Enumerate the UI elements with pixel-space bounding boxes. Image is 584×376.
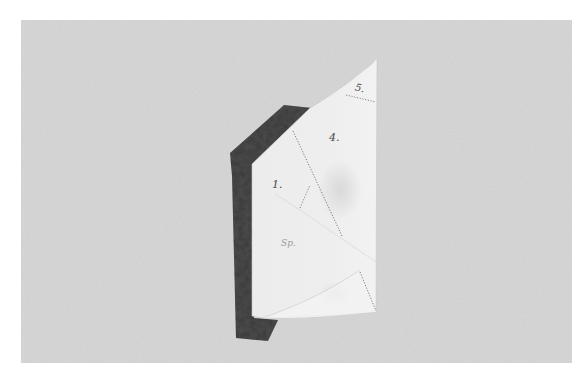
photograph: 5. 4. 1. Sp.	[0, 0, 584, 376]
photo-frame: 5. 4. 1. Sp.	[0, 0, 584, 376]
label-one: 1.	[272, 178, 283, 191]
label-four: 4.	[328, 131, 340, 144]
label-sp: Sp.	[281, 238, 296, 248]
